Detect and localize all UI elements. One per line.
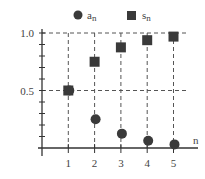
scatter-chart: 0.51.012345 ansn n — [0, 0, 205, 179]
x-tick-label: 3 — [118, 157, 124, 169]
point-a_n — [117, 129, 127, 139]
legend-label-s_n: sn — [142, 9, 151, 23]
x-tick-label: 5 — [171, 157, 177, 169]
legend: ansn — [74, 9, 152, 23]
legend-circle-icon — [74, 11, 83, 20]
point-s_n — [116, 42, 126, 52]
x-axis-label: n — [193, 134, 199, 146]
point-a_n — [64, 86, 74, 96]
y-tick-label: 0.5 — [20, 85, 34, 97]
point-s_n — [142, 35, 152, 45]
point-s_n — [90, 57, 100, 67]
point-s_n — [169, 32, 179, 42]
legend-label-a_n: an — [87, 9, 97, 23]
legend-square-icon — [127, 11, 136, 20]
x-tick-label: 1 — [66, 157, 72, 169]
point-a_n — [143, 136, 153, 146]
y-tick-label: 1.0 — [20, 27, 34, 39]
point-a_n — [170, 139, 180, 149]
point-a_n — [91, 114, 101, 124]
x-tick-label: 2 — [92, 157, 98, 169]
x-tick-label: 4 — [144, 157, 150, 169]
